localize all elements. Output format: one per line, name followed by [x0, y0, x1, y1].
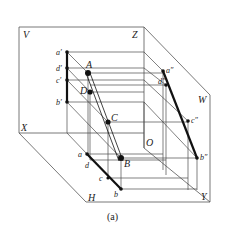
- label-A: A: [85, 59, 93, 70]
- label-y: Y: [201, 191, 208, 202]
- figure-caption: (a): [107, 211, 118, 223]
- label-a-top: a: [78, 150, 82, 159]
- label-b-prime: b′: [56, 98, 62, 107]
- label-z: Z: [132, 29, 138, 40]
- label-w: W: [198, 94, 208, 105]
- projection-diagram: V Z W X O Y H A D C B a′ d′ c′ b′ a″ d″ …: [0, 0, 226, 239]
- label-c-dprime: c″: [191, 116, 199, 125]
- label-D: D: [79, 85, 88, 96]
- label-a-prime: a′: [56, 48, 62, 57]
- label-h: H: [87, 192, 96, 203]
- label-C: C: [111, 112, 118, 123]
- label-v: V: [23, 29, 31, 40]
- label-x: X: [20, 122, 28, 133]
- label-a-dprime: a″: [166, 66, 174, 75]
- label-o: O: [146, 137, 153, 148]
- label-c-prime: c′: [56, 76, 62, 85]
- label-b-top: b: [114, 190, 118, 199]
- label-b-dprime: b″: [200, 153, 208, 162]
- label-B: B: [124, 158, 130, 169]
- w-plane: [144, 27, 210, 202]
- label-d-top: d: [85, 161, 90, 170]
- label-d-prime: d′: [56, 64, 62, 73]
- label-d-dprime: d″: [158, 77, 166, 86]
- labels: V Z W X O Y H A D C B a′ d′ c′ b′ a″ d″ …: [20, 29, 208, 223]
- label-c-top: c: [99, 174, 103, 183]
